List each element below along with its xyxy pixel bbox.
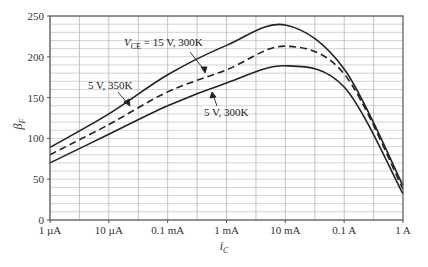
svg-text:250: 250 bbox=[28, 10, 45, 22]
svg-text:1 mA: 1 mA bbox=[214, 224, 239, 236]
svg-text:200: 200 bbox=[28, 51, 45, 63]
svg-text:50: 50 bbox=[33, 173, 45, 185]
svg-text:10 mA: 10 mA bbox=[270, 224, 300, 236]
annotation-5v-300k: 5 V, 300K bbox=[204, 106, 249, 118]
svg-text:1 µA: 1 µA bbox=[39, 224, 62, 236]
x-axis-ticks: 1 µA10 µA0.1 mA1 mA10 mA0.1 A1 A bbox=[39, 220, 411, 236]
svg-text:0.1 A: 0.1 A bbox=[332, 224, 356, 236]
x-axis-label: iC bbox=[220, 239, 229, 255]
arrowhead-icon bbox=[210, 92, 216, 98]
annotation-5v-350k: 5 V, 350K bbox=[88, 79, 133, 91]
svg-text:0.1 mA: 0.1 mA bbox=[151, 224, 184, 236]
svg-text:1 A: 1 A bbox=[395, 224, 411, 236]
svg-text:150: 150 bbox=[28, 92, 45, 104]
y-axis-label: βF bbox=[11, 118, 27, 130]
svg-text:100: 100 bbox=[28, 132, 45, 144]
svg-text:10 µA: 10 µA bbox=[95, 224, 123, 236]
arrowhead-icon bbox=[201, 67, 207, 73]
y-axis-ticks: 050100150200250 bbox=[28, 10, 51, 226]
beta-vs-collector-current-chart: 050100150200250 1 µA10 µA0.1 mA1 mA10 mA… bbox=[0, 0, 428, 267]
